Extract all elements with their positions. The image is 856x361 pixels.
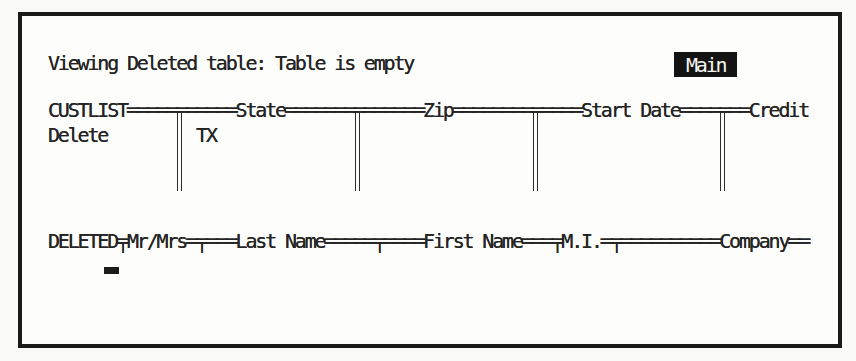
custlist-column-separator xyxy=(355,113,360,191)
custlist-column-separator xyxy=(177,113,182,191)
custlist-column-separator xyxy=(720,113,725,191)
status-message: Viewing Deleted table: Table is empty xyxy=(48,51,413,75)
screen-frame: Viewing Deleted table: Table is empty Ma… xyxy=(18,12,842,348)
screenshot-page: Viewing Deleted table: Table is empty Ma… xyxy=(0,0,856,361)
input-cursor[interactable] xyxy=(104,267,119,274)
mode-indicator-badge: Main xyxy=(674,52,737,77)
deleted-table-header: DELETED╤Mr/Mrs═╤═══Last Name═════╤════Fi… xyxy=(48,226,808,256)
custlist-column-separator xyxy=(533,113,538,191)
custlist-record-row[interactable]: Delete TX xyxy=(48,123,216,147)
custlist-table-header: CUSTLIST═══════════State══════════════Zi… xyxy=(48,98,808,122)
